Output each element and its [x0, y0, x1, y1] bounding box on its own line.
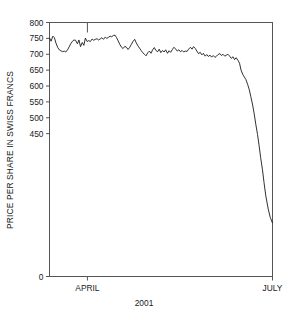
y-tick-label: 700 [30, 49, 44, 59]
x-category-label: APRIL [75, 283, 100, 293]
plot-frame [50, 23, 273, 277]
x-axis-category-labels: APRILJULY [75, 283, 283, 293]
y-tick-label: 450 [30, 129, 44, 139]
y-tick-label: 500 [30, 113, 44, 123]
y-axis-tick-labels: 0450500550600650700750800 [30, 18, 44, 282]
y-tick-label: 650 [30, 65, 44, 75]
chart-canvas: 0450500550600650700750800 APRILJULY 2001… [0, 0, 289, 323]
series-line [50, 35, 273, 223]
data-series-group [50, 35, 273, 223]
y-tick-label: 600 [30, 81, 44, 91]
y-tick-label: 750 [30, 33, 44, 43]
y-tick-label: 550 [30, 97, 44, 107]
y-tick-label: 0 [39, 272, 44, 282]
y-axis-ticks [46, 23, 50, 277]
x-axis-ticks [87, 23, 272, 281]
x-axis-title: 2001 [135, 298, 154, 308]
y-tick-label: 800 [30, 18, 44, 28]
chart-figure: 0450500550600650700750800 APRILJULY 2001… [0, 0, 289, 323]
y-axis-title: PRICE PER SHARE IN SWISS FRANCS [5, 71, 15, 229]
x-category-label: JULY [263, 283, 283, 293]
